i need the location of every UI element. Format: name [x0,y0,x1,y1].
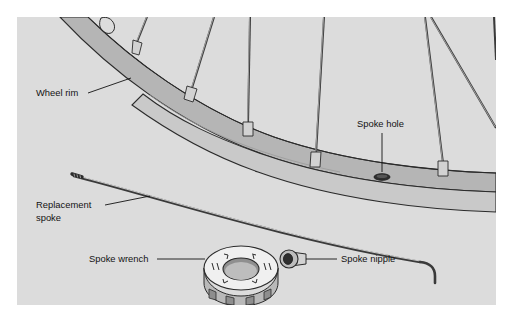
label-spoke-hole: Spoke hole [357,118,404,129]
label-wheel-rim: Wheel rim [36,87,78,98]
spoke-4-nipple [310,152,321,167]
wrench-notch-3 [246,296,254,305]
label-replacement-spoke-line2: spoke [36,212,61,223]
spoke-hole-highlight [377,174,388,178]
spoke-3-nipple [243,122,253,136]
spoke-wrench [204,246,278,306]
label-spoke-wrench: Spoke wrench [89,253,148,264]
spoke-nipple-bore [283,254,292,265]
figure-root: Wheel rim Spoke hole Replacement spoke S… [0,0,512,322]
wrench-notch-2 [226,296,234,305]
wheel-spoke-diagram: Wheel rim Spoke hole Replacement spoke S… [0,0,512,322]
label-spoke-nipple: Spoke nipple [341,253,395,264]
wrench-center-hole-inner [225,262,257,280]
spoke-5-nipple [438,161,448,176]
label-replacement-spoke-line1: Replacement [36,199,92,210]
